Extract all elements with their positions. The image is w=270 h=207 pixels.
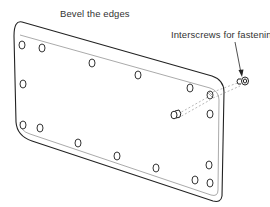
- bolt-hole: [192, 176, 198, 184]
- bolt-hole: [89, 59, 95, 67]
- bolt-hole: [206, 161, 212, 169]
- bolt-hole: [114, 152, 120, 160]
- bolt-hole: [19, 41, 25, 49]
- bevel-inner-line: [20, 35, 219, 195]
- bolt-hole: [20, 80, 26, 88]
- bolt-hole: [39, 44, 45, 52]
- plate-diagram: [0, 0, 270, 207]
- bolt-hole: [187, 84, 193, 92]
- arrow-head-icon: [239, 70, 244, 78]
- interscrew-top: [237, 77, 249, 85]
- bolt-hole: [153, 164, 159, 172]
- bolt-hole: [20, 121, 26, 129]
- bolt-hole: [75, 139, 81, 147]
- leader-arrow: [235, 42, 244, 77]
- bolt-hole: [135, 71, 141, 79]
- bolt-holes: [19, 41, 213, 187]
- bolt-hole: [207, 110, 213, 118]
- interscrew-middle: [171, 110, 181, 119]
- bolt-hole: [207, 179, 213, 187]
- plate-outline: [14, 22, 224, 202]
- bolt-hole: [37, 124, 43, 132]
